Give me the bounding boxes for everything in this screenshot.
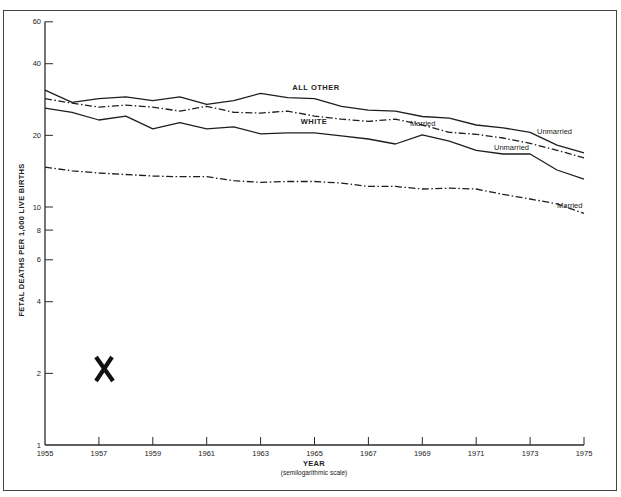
x-tick-label: 1969: [414, 449, 431, 458]
x-tick-label: 1955: [37, 449, 54, 458]
label-all-other-unmarried: Unmarried: [537, 127, 572, 136]
x-tick-label: 1957: [91, 449, 108, 458]
y-tick-label: 2: [37, 369, 41, 378]
chart-labels: FETAL DEATHS PER 1,000 LIVE BIRTHS YEAR …: [17, 83, 582, 477]
x-tick-label: 1973: [522, 449, 539, 458]
group-label-white: WHITE: [301, 117, 328, 126]
x-axis-subtitle: (semilogarithmic scale): [281, 469, 347, 477]
group-label-all-other: ALL OTHER: [292, 83, 339, 92]
y-tick-label: 60: [33, 17, 41, 26]
x-axis-title: YEAR: [303, 459, 325, 468]
line-chart: 1246810204060195519571959196119631965196…: [0, 0, 621, 497]
y-tick-label: 20: [33, 131, 41, 140]
y-tick-label: 6: [37, 255, 41, 264]
x-tick-label: 1971: [468, 449, 485, 458]
x-tick-label: 1975: [576, 449, 593, 458]
x-mark-icon: [96, 357, 113, 381]
y-tick-label: 10: [33, 203, 41, 212]
label-all-other-married: Married: [410, 119, 435, 128]
y-axis-title: FETAL DEATHS PER 1,000 LIVE BIRTHS: [17, 163, 26, 316]
x-tick-label: 1963: [252, 449, 269, 458]
y-tick-label: 8: [37, 226, 41, 235]
label-white-married: Married: [557, 201, 582, 210]
label-white-unmarried: Unmarried: [494, 143, 529, 152]
x-tick-label: 1965: [306, 449, 323, 458]
series-line-white-married: [45, 167, 584, 213]
x-tick-label: 1959: [144, 449, 161, 458]
y-tick-label: 4: [37, 297, 41, 306]
x-tick-label: 1967: [360, 449, 377, 458]
y-tick-label: 40: [33, 59, 41, 68]
x-tick-label: 1961: [198, 449, 215, 458]
